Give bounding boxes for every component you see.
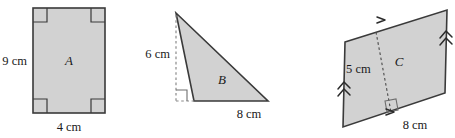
- shape-a-width-label: 4 cm: [57, 120, 82, 134]
- geometry-figure-canvas: A 9 cm 4 cm B 6 cm 8 cm: [0, 0, 455, 138]
- shape-a-letter: A: [64, 53, 73, 68]
- shape-c-base-label: 8 cm: [403, 118, 428, 132]
- shape-a-group: A 9 cm 4 cm: [2, 8, 105, 134]
- shape-b-group: B 6 cm 8 cm: [145, 13, 268, 121]
- shape-c-letter: C: [395, 54, 404, 69]
- geometry-figure: A 9 cm 4 cm B 6 cm 8 cm: [0, 0, 455, 138]
- shape-b-height-label: 6 cm: [145, 47, 170, 61]
- shape-c-height-label: 5 cm: [346, 62, 371, 76]
- parallel-mark-top-chevron-icon: [377, 17, 385, 23]
- triangle-b: [176, 13, 268, 101]
- shape-c-group: C 5 cm 8 cm: [338, 10, 452, 132]
- shape-b-base-label: 8 cm: [237, 107, 262, 121]
- shape-a-height-label: 9 cm: [2, 54, 27, 68]
- shape-b-letter: B: [218, 72, 226, 87]
- right-angle-marker-triangle-icon: [176, 90, 187, 101]
